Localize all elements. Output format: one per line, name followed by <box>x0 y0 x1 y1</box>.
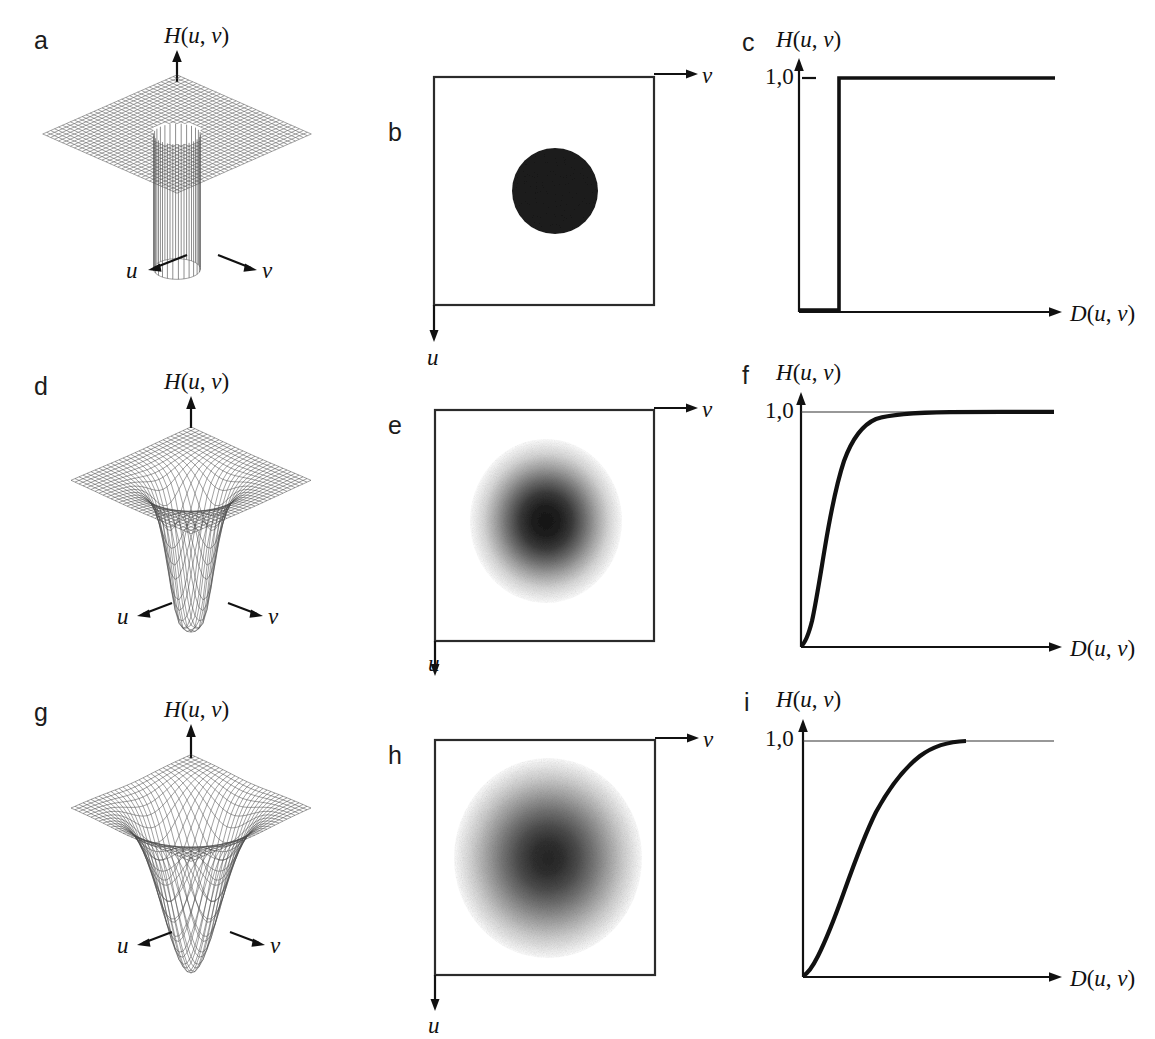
panel-a-surface-plot <box>0 0 390 345</box>
panel-c-y-tick-1: 1,0 <box>765 65 794 88</box>
panel-h-mask-image <box>380 700 750 1030</box>
panel-h-u-label: u <box>428 1014 440 1037</box>
panel-f-label: f <box>742 363 749 388</box>
gaussian-highpass-blob <box>454 758 642 958</box>
panel-h-v-label: v <box>703 728 713 751</box>
panel-f-y-tick-1: 1,0 <box>765 399 794 422</box>
y-axis <box>798 719 808 977</box>
panel-b-u-label: u <box>427 346 439 369</box>
panel-f-y-axis-label: H(u, v) <box>776 361 841 384</box>
u-axis-arrow <box>137 932 172 947</box>
panel-i: i H(u, v) 1,0 D(u, v) <box>740 680 1155 1020</box>
panel-a-h-label: H(u, v) <box>164 24 229 47</box>
panel-f-x-axis-label: D(u, v) <box>1070 637 1135 660</box>
panel-g-u-label: u <box>117 934 129 957</box>
y-axis <box>794 58 804 312</box>
butterworth-highpass-blob <box>470 439 622 603</box>
panel-e-v-label: v <box>702 398 712 421</box>
panel-b-mask-image <box>380 40 750 360</box>
panel-i-y-axis-label: H(u, v) <box>776 688 841 711</box>
panel-d-surface-plot <box>0 350 390 680</box>
v-axis-arrow <box>218 255 257 272</box>
panel-i-label: i <box>744 690 750 715</box>
panel-i-x-axis-label: D(u, v) <box>1070 967 1135 990</box>
panel-e: e <box>380 380 750 680</box>
panel-c: c H(u, v) 1,0 D(u, v) <box>740 10 1155 350</box>
panel-d: d H(u, v) u v <box>0 350 390 680</box>
h-axis-arrow <box>172 50 182 82</box>
h-axis-arrow <box>186 724 196 758</box>
panel-g-label: g <box>34 700 48 725</box>
x-axis <box>801 642 1062 652</box>
panel-d-v-label: v <box>268 605 278 628</box>
panel-e-label: e <box>388 413 402 438</box>
panel-f: f H(u, v) 1,0 D(u, v) <box>740 355 1155 685</box>
panel-c-x-axis-label: D(u, v) <box>1070 302 1135 325</box>
panel-c-y-axis-label: H(u, v) <box>776 28 841 51</box>
panel-h: h <box>380 700 750 1030</box>
panel-d-u-label: u <box>117 605 129 628</box>
v-axis-arrow <box>655 734 699 743</box>
ideal-highpass-step-curve <box>799 78 1055 310</box>
v-axis-arrow <box>228 603 263 618</box>
ideal-highpass-cylinder <box>154 124 201 280</box>
panel-b: b v u <box>380 40 750 360</box>
panel-e-u-label: u <box>428 652 440 675</box>
panel-c-label: c <box>742 30 755 55</box>
ideal-highpass-mesh <box>43 75 312 193</box>
ideal-highpass-disc <box>512 148 598 234</box>
panel-h-label: h <box>388 743 402 768</box>
butterworth-highpass-curve <box>801 412 1054 646</box>
u-axis-arrow <box>431 975 440 1011</box>
h-axis-arrow <box>186 396 196 428</box>
butterworth-highpass-mesh <box>71 427 311 632</box>
panel-a-u-label: u <box>126 259 138 282</box>
gaussian-highpass-curve <box>803 741 966 976</box>
panel-g-h-label: H(u, v) <box>164 698 229 721</box>
v-axis-arrow <box>654 70 698 79</box>
u-axis-arrow <box>430 305 439 342</box>
panel-g-v-label: v <box>270 934 280 957</box>
v-axis-arrow <box>654 404 698 413</box>
x-axis <box>803 972 1062 982</box>
panel-a-v-label: v <box>262 259 272 282</box>
panel-e-mask-image <box>380 380 750 680</box>
y-axis <box>796 392 806 647</box>
panel-i-y-tick-1: 1,0 <box>765 727 794 750</box>
panel-a: a H(u, v) u v <box>0 0 390 345</box>
panel-a-label: a <box>34 28 48 53</box>
panel-b-v-label: v <box>702 64 712 87</box>
u-axis-arrow <box>137 603 172 618</box>
panel-g: g H(u, v) u v <box>0 670 390 1010</box>
panel-d-h-label: H(u, v) <box>164 370 229 393</box>
panel-c-chart <box>740 10 1155 350</box>
panel-d-label: d <box>34 374 48 399</box>
panel-b-label: b <box>388 120 402 145</box>
v-axis-arrow <box>230 932 265 947</box>
